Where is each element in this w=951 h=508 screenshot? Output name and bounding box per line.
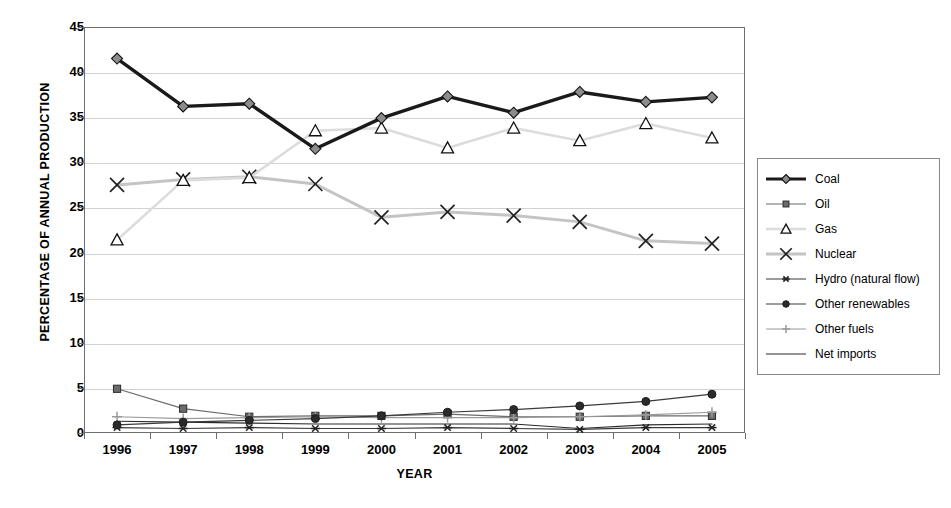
legend-marker-icon — [764, 171, 808, 187]
legend-label: Other fuels — [808, 322, 874, 336]
x-tick-mark — [613, 433, 614, 439]
chart-legend: CoalOilGasNuclearHydro (natural flow)Oth… — [757, 158, 940, 375]
legend-label: Gas — [808, 222, 837, 236]
y-tick-mark — [78, 253, 84, 254]
chart-figure: PERCENTAGE OF ANNUAL PRODUCTION 05101520… — [0, 0, 951, 508]
legend-label: Other renewables — [808, 297, 910, 311]
y-tick-mark — [78, 117, 84, 118]
x-tick-mark — [745, 433, 746, 439]
x-tick-mark — [547, 433, 548, 439]
legend-item-gas[interactable]: Gas — [764, 216, 933, 241]
legend-item-other-fuels[interactable]: Other fuels — [764, 316, 933, 341]
series-net-imports — [117, 421, 712, 428]
legend-marker-icon — [764, 296, 808, 312]
series-gas — [111, 118, 718, 245]
x-tick-label: 2005 — [677, 442, 747, 457]
x-axis-title: YEAR — [84, 467, 745, 481]
legend-item-hydro-natural-flow[interactable]: Hydro (natural flow) — [764, 266, 933, 291]
y-axis: 051015202530354045 — [0, 0, 84, 508]
x-tick-label: 2003 — [545, 442, 615, 457]
legend-item-oil[interactable]: Oil — [764, 191, 933, 216]
legend-item-nuclear[interactable]: Nuclear — [764, 241, 933, 266]
legend-label: Oil — [808, 197, 830, 211]
y-tick-mark — [78, 207, 84, 208]
x-tick-label: 1996 — [82, 442, 152, 457]
x-tick-mark — [481, 433, 482, 439]
legend-item-other-renewables[interactable]: Other renewables — [764, 291, 933, 316]
legend-marker-icon — [764, 321, 808, 337]
legend-item-net-imports[interactable]: Net imports — [764, 341, 933, 366]
legend-marker-icon — [764, 196, 808, 212]
x-tick-label: 2001 — [413, 442, 483, 457]
x-tick-label: 1997 — [148, 442, 218, 457]
x-tick-mark — [415, 433, 416, 439]
y-tick-mark — [78, 298, 84, 299]
series-nuclear — [110, 170, 719, 251]
legend-marker-icon — [764, 221, 808, 237]
y-tick-mark — [78, 162, 84, 163]
legend-label: Coal — [808, 172, 840, 186]
legend-item-coal[interactable]: Coal — [764, 166, 933, 191]
x-tick-mark — [150, 433, 151, 439]
legend-label: Hydro (natural flow) — [808, 272, 920, 286]
legend-marker-icon — [764, 271, 808, 287]
x-tick-mark — [84, 433, 85, 439]
x-tick-label: 1999 — [280, 442, 350, 457]
legend-marker-icon — [764, 246, 808, 262]
x-tick-mark — [216, 433, 217, 439]
x-tick-label: 2000 — [346, 442, 416, 457]
legend-label: Nuclear — [808, 247, 856, 261]
series-layer — [84, 27, 745, 433]
legend-label: Net imports — [808, 347, 876, 361]
x-tick-mark — [348, 433, 349, 439]
y-tick-mark — [78, 343, 84, 344]
x-tick-mark — [282, 433, 283, 439]
x-tick-label: 1998 — [214, 442, 284, 457]
y-tick-mark — [78, 388, 84, 389]
y-tick-mark — [78, 72, 84, 73]
legend-marker-icon — [764, 346, 808, 362]
y-tick-mark — [78, 27, 84, 28]
x-tick-label: 2002 — [479, 442, 549, 457]
x-tick-label: 2004 — [611, 442, 681, 457]
series-other-renewables — [113, 390, 716, 429]
x-tick-mark — [679, 433, 680, 439]
